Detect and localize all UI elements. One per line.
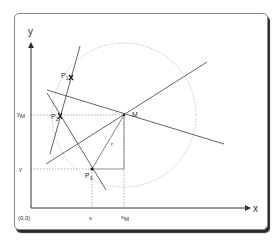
tick-label-xM: xM [121, 214, 129, 222]
origin-label: (0,0) [18, 215, 30, 221]
radius-line [92, 115, 124, 169]
point-m-marker [123, 114, 125, 116]
x-axis-label: x [253, 203, 258, 214]
y-axis-label: y [28, 26, 33, 37]
p3-label: P3 [85, 172, 93, 181]
tick-label-yM: yM [17, 111, 25, 119]
diagram-canvas: y x (0,0) P1 P2 P3 M r yM y x xM [0, 0, 277, 241]
tick-label-x: x [89, 215, 92, 221]
radius-label: r [111, 141, 113, 147]
line-p2-p3 [47, 93, 106, 190]
tick-label-y: y [19, 166, 22, 172]
m-label: M [132, 111, 138, 118]
point-p3-marker [90, 167, 93, 170]
line-p1-p2 [50, 46, 80, 154]
p1-label: P1 [61, 72, 69, 81]
